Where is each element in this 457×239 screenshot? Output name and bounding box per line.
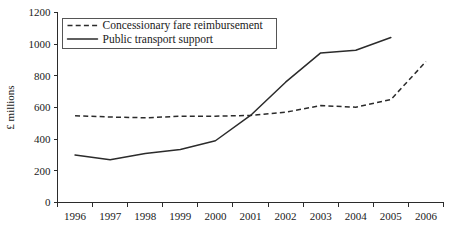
x-tick-label: 2004 bbox=[345, 210, 368, 222]
chart-canvas: 0200400600800100012001996199719981999200… bbox=[0, 0, 457, 239]
y-tick-label: 1200 bbox=[29, 6, 52, 18]
legend-label: Concessionary fare reimbursement bbox=[103, 19, 264, 32]
x-tick-label: 2000 bbox=[204, 210, 227, 222]
line-chart: 0200400600800100012001996199719981999200… bbox=[0, 0, 457, 239]
x-tick-label: 2001 bbox=[240, 210, 262, 222]
y-tick-label: 200 bbox=[34, 165, 51, 177]
x-tick-label: 2005 bbox=[380, 210, 403, 222]
y-tick-label: 0 bbox=[45, 196, 51, 208]
x-tick-label: 1999 bbox=[169, 210, 192, 222]
y-tick-label: 400 bbox=[34, 133, 51, 145]
series-line-public-transport-support bbox=[75, 38, 391, 160]
x-tick-label: 2002 bbox=[275, 210, 297, 222]
x-tick-label: 2003 bbox=[310, 210, 333, 222]
x-tick-label: 1998 bbox=[134, 210, 157, 222]
x-tick-label: 2006 bbox=[415, 210, 438, 222]
x-tick-label: 1996 bbox=[64, 210, 87, 222]
y-tick-label: 1000 bbox=[29, 38, 52, 50]
y-tick-label: 600 bbox=[34, 101, 51, 113]
x-tick-label: 1997 bbox=[99, 210, 122, 222]
y-axis-title: £ millions bbox=[4, 85, 16, 129]
series-line-concessionary-fare-reimbursement bbox=[75, 62, 426, 118]
legend-label: Public transport support bbox=[103, 33, 214, 46]
y-tick-label: 800 bbox=[34, 70, 51, 82]
